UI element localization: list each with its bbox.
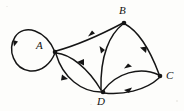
scan-speck: [90, 104, 92, 105]
graph-figure: A B C D: [0, 0, 184, 111]
vertex-dot-b: [122, 21, 127, 26]
edge-a-to-b-arrowhead: [88, 31, 95, 37]
edge-a-to-b: [56, 23, 123, 51]
edge-a-to-a-arrowhead: [13, 40, 18, 47]
edge-a-to-b-path: [56, 23, 123, 51]
edge-d-to-c-arrowhead: [124, 64, 132, 69]
edge-c-to-d: [104, 78, 159, 93]
vertex-label-c: C: [166, 70, 173, 81]
vertex-label-d: D: [97, 96, 105, 107]
edge-a-to-a: [12, 30, 55, 71]
vertex-dot-d: [101, 90, 106, 95]
scan-speck: [176, 100, 178, 102]
edge-b-to-c-arrowhead: [140, 47, 147, 54]
graph-canvas: [0, 0, 184, 111]
vertex-dot-c: [158, 74, 163, 79]
edge-b-to-d-path: [101, 24, 123, 90]
vertex-dot-a: [53, 50, 58, 55]
edge-b-to-d-arrowhead: [100, 46, 106, 54]
edge-d-to-c: [103, 64, 159, 92]
edge-b-to-d: [100, 24, 124, 90]
edge-c-to-d-path: [104, 78, 159, 93]
edge-d-to-a: [56, 54, 101, 92]
vertex-label-a: A: [36, 40, 43, 51]
edge-a-to-a-path: [12, 30, 55, 71]
vertex-label-b: B: [119, 5, 126, 16]
scan-speck: [6, 6, 8, 7]
edge-d-to-a-path: [56, 54, 101, 92]
